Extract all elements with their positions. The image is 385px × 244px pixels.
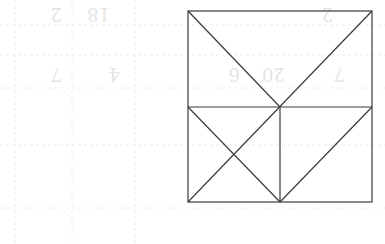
- bleed-through-label: 7: [51, 64, 62, 85]
- bleed-through-label: 7: [334, 64, 345, 85]
- bleed-through-label: 4: [109, 64, 120, 85]
- bleed-through-label: 2: [322, 4, 333, 25]
- bleed-through-labels: 2182742067: [51, 4, 345, 85]
- bleed-through-label: 20: [262, 64, 285, 85]
- bleed-through-label: 2: [51, 4, 62, 25]
- geometry-diagram: 2182742067: [0, 0, 385, 244]
- background-grid: [0, 0, 385, 244]
- tangram-figure: [188, 11, 372, 202]
- bleed-through-label: 6: [229, 64, 240, 85]
- bleed-through-label: 18: [87, 4, 110, 25]
- lower-right-diagonal-line: [280, 107, 372, 202]
